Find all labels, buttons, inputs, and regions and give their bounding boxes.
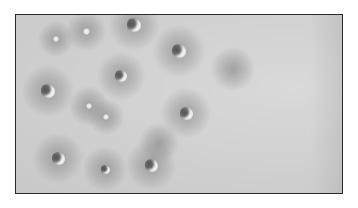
- particle: [145, 159, 158, 172]
- particle: [115, 70, 127, 82]
- particle: [53, 36, 59, 42]
- micrograph-frame: [15, 14, 343, 194]
- particle: [52, 152, 65, 165]
- particle: [172, 44, 186, 58]
- particle: [103, 114, 109, 120]
- particle: [101, 165, 110, 174]
- particle: [83, 28, 90, 35]
- dark-halo: [211, 47, 255, 91]
- particle: [127, 18, 141, 32]
- particle: [41, 84, 55, 98]
- particle: [86, 103, 92, 109]
- particle: [180, 107, 193, 120]
